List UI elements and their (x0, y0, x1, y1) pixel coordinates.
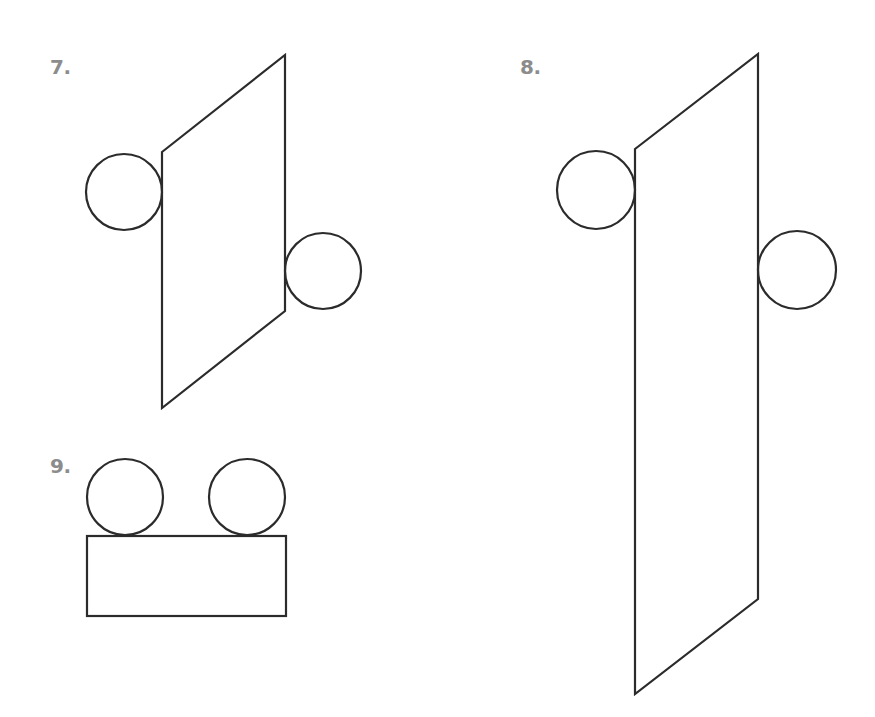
figure-9 (87, 459, 286, 616)
figure-9-circle-right (209, 459, 285, 535)
figure-7-circle-right (285, 233, 361, 309)
figure-7 (86, 55, 361, 408)
figure-7-parallelogram (162, 55, 285, 408)
diagram-canvas (0, 0, 875, 717)
figure-8-circle-left (557, 151, 635, 229)
figure-9-rectangle (87, 536, 286, 616)
figure-9-circle-left (87, 459, 163, 535)
figure-8 (557, 54, 836, 694)
figure-8-circle-right (758, 231, 836, 309)
figure-7-circle-left (86, 154, 162, 230)
figure-8-parallelogram (635, 54, 758, 694)
